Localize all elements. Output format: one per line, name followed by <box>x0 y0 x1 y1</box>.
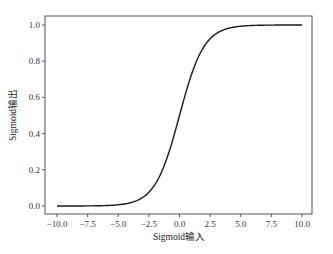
y-tick-label: 0.2 <box>29 165 40 175</box>
x-tick-label: 2.5 <box>205 219 217 229</box>
y-tick-label: 0.8 <box>29 56 41 66</box>
x-tick-label: 7.5 <box>266 219 278 229</box>
x-tick-label: 10.0 <box>294 219 310 229</box>
plot-frame <box>45 16 312 214</box>
x-axis-ticks: −10.0−7.5−5.0−2.50.02.55.07.510.0 <box>47 214 311 229</box>
x-axis-label: Sigmoid输入 <box>153 231 205 242</box>
axes-border <box>45 16 312 214</box>
y-tick-label: 0.4 <box>29 129 41 139</box>
y-tick-label: 0.6 <box>29 92 41 102</box>
x-tick-label: 5.0 <box>235 219 247 229</box>
x-tick-label: 0.0 <box>174 219 186 229</box>
sigmoid-curve <box>57 25 302 206</box>
y-axis-label: Sigmoid输出 <box>7 89 18 141</box>
y-tick-label: 1.0 <box>29 20 41 30</box>
x-tick-label: −10.0 <box>47 219 68 229</box>
x-tick-label: −7.5 <box>79 219 96 229</box>
x-tick-label: −5.0 <box>110 219 127 229</box>
y-tick-label: 0.0 <box>29 201 41 211</box>
x-tick-label: −2.5 <box>141 219 158 229</box>
y-axis-ticks: 0.00.20.40.60.81.0 <box>29 20 45 211</box>
sigmoid-chart: −10.0−7.5−5.0−2.50.02.55.07.510.0 0.00.2… <box>0 0 333 254</box>
